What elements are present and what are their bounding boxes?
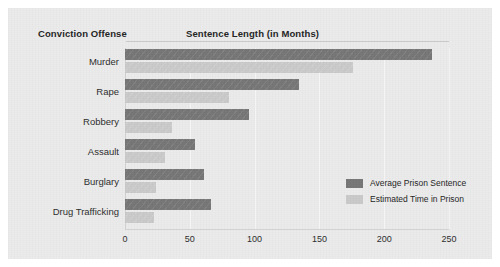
x-tick-label: 50 [185, 234, 195, 244]
bar-estimated-time-in-prison [125, 62, 353, 73]
chart-screenshot: Conviction Offense Sentence Length (in M… [0, 0, 500, 267]
x-tick-label: 250 [441, 234, 456, 244]
bar-average-prison-sentence [125, 139, 195, 150]
legend-swatch-light [346, 195, 363, 204]
legend-swatch-dark [346, 179, 363, 188]
category-label: Murder [89, 56, 119, 67]
bar-average-prison-sentence [125, 199, 211, 210]
bar-average-prison-sentence [125, 169, 204, 180]
category-column-header: Conviction Offense [38, 28, 127, 39]
bar-estimated-time-in-prison [125, 152, 165, 163]
legend-entry: Average Prison Sentence [346, 176, 466, 190]
bar-row: Assault [125, 138, 449, 168]
bar-estimated-time-in-prison [125, 212, 154, 223]
bar-average-prison-sentence [125, 49, 432, 60]
bar-estimated-time-in-prison [125, 182, 156, 193]
bar-row: Murder [125, 48, 449, 78]
header-divider-rule [126, 41, 449, 42]
x-tick-label: 0 [122, 234, 127, 244]
bar-row: Robbery [125, 108, 449, 138]
category-label: Assault [88, 146, 119, 157]
value-column-header: Sentence Length (in Months) [186, 28, 319, 39]
x-tick-label: 100 [247, 234, 262, 244]
x-axis-line [125, 229, 449, 230]
x-tick-label: 150 [312, 234, 327, 244]
bar-row: Rape [125, 78, 449, 108]
category-label: Rape [96, 86, 119, 97]
legend-label: Average Prison Sentence [370, 178, 466, 188]
legend-entry: Estimated Time in Prison [346, 192, 466, 206]
category-label: Robbery [83, 116, 119, 127]
category-label: Drug Trafficking [53, 206, 119, 217]
legend-label: Estimated Time in Prison [370, 194, 464, 204]
bar-average-prison-sentence [125, 79, 299, 90]
category-label: Burglary [84, 176, 119, 187]
chart-card: Conviction Offense Sentence Length (in M… [8, 8, 492, 259]
bar-estimated-time-in-prison [125, 122, 172, 133]
bar-estimated-time-in-prison [125, 92, 229, 103]
bar-average-prison-sentence [125, 109, 249, 120]
x-tick-label: 200 [377, 234, 392, 244]
chart-legend: Average Prison SentenceEstimated Time in… [346, 176, 466, 208]
